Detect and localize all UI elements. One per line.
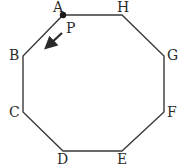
label-a: A <box>52 0 64 15</box>
label-e: E <box>117 151 127 166</box>
label-d: D <box>57 151 68 166</box>
direction-arrow-icon <box>49 33 62 45</box>
label-p: P <box>66 20 75 36</box>
label-c: C <box>9 104 20 120</box>
label-g: G <box>167 47 178 63</box>
octagon-diagram: A H G F E D C B P <box>0 0 184 166</box>
octagon-outline <box>23 15 164 151</box>
label-f: F <box>167 104 177 120</box>
label-b: B <box>9 47 19 63</box>
label-h: H <box>117 0 129 15</box>
